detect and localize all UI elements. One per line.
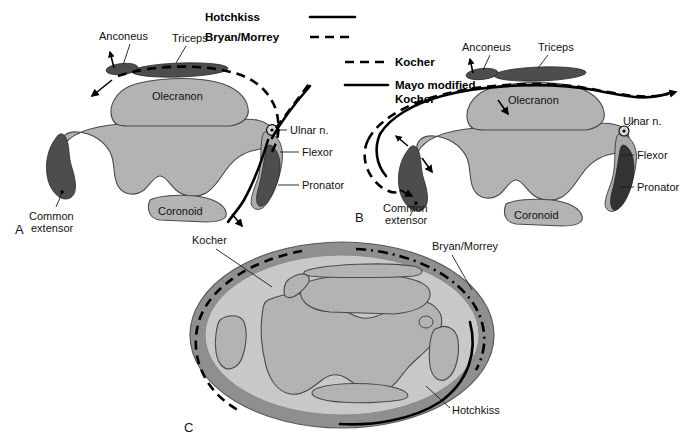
- panel-a-letter: A: [15, 222, 24, 237]
- panel-a-label-anconeus: Anconeus: [99, 30, 148, 42]
- panel-b-label-ulnar-n: Ulnar n.: [623, 115, 662, 127]
- panel-b-label-common-extensor-line2: extensor: [385, 214, 428, 226]
- panel-a-label-triceps: Triceps: [172, 32, 208, 44]
- panel-a-label-olecranon: Olecranon: [152, 90, 203, 102]
- panel-b-label-coronoid: Coronoid: [514, 209, 559, 221]
- medical-illustration-figure: Hotchkiss Bryan/Morrey Kocher Mayo modif…: [0, 0, 685, 442]
- panel-b-letter: B: [355, 210, 364, 225]
- panel-c-triceps-block: [300, 274, 430, 314]
- panel-b-olecranon: [467, 83, 604, 130]
- legend-top-item-1-label: Bryan/Morrey: [205, 31, 280, 43]
- legend-mid-item-0-label: Kocher: [395, 56, 435, 68]
- panel-c-label-kocher: Kocher: [192, 234, 227, 246]
- panel-a-ulnar-nerve-core: [270, 128, 273, 131]
- panel-c-label-bryan-morrey: Bryan/Morrey: [432, 240, 499, 252]
- panel-b-ulnar-nerve-core: [623, 130, 626, 133]
- panel-a-label-ulnar-n: Ulnar n.: [290, 124, 329, 136]
- panel-a-label-flexor: Flexor: [302, 146, 333, 158]
- panel-c-ulnar-nerve: [419, 316, 433, 328]
- panel-b-label-anconeus: Anconeus: [462, 41, 511, 53]
- panel-c-label-hotchkiss: Hotchkiss: [452, 404, 500, 416]
- panel-a-label-common-extensor-line2: extensor: [31, 222, 74, 234]
- panel-b-label-common-extensor-line1: Common: [383, 202, 428, 214]
- legend-top-item-0-label: Hotchkiss: [205, 11, 260, 23]
- panel-a-label-coronoid: Coronoid: [158, 205, 203, 217]
- panel-a-olecranon: [111, 79, 248, 126]
- panel-a-label-common-extensor-line1: Common: [29, 210, 74, 222]
- panel-b-label-triceps: Triceps: [538, 41, 574, 53]
- panel-b-label-flexor: Flexor: [637, 149, 668, 161]
- panel-b-label-pronator: Pronator: [637, 181, 680, 193]
- panel-b-label-olecranon: Olecranon: [508, 94, 559, 106]
- panel-a-label-pronator: Pronator: [302, 179, 345, 191]
- panel-c-letter: C: [184, 420, 193, 435]
- panel-a-common-extensor-leader-dot: [60, 190, 64, 194]
